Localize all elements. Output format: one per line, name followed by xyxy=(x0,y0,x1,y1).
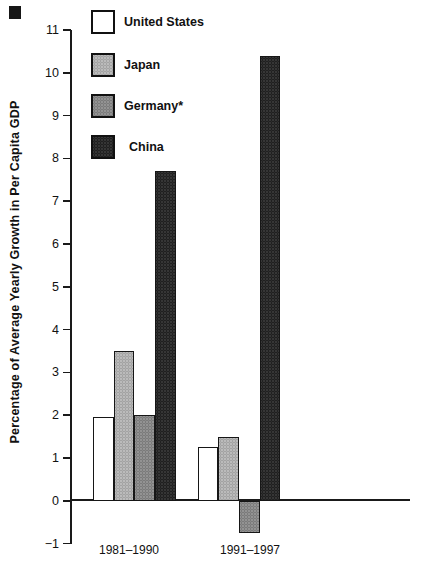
legend-item-united-states: United States xyxy=(91,10,204,34)
y-tick-label-10: 10 xyxy=(18,65,59,81)
x-label-1991-1997: 1991–1997 xyxy=(220,543,280,557)
y-tick-label-4: 4 xyxy=(18,322,59,338)
legend-item-germany: Germany* xyxy=(91,94,183,118)
y-tick-6 xyxy=(63,243,71,245)
bar-chart-figure: Percentage of Average Yearly Growth in P… xyxy=(0,0,424,564)
y-tick-3 xyxy=(63,372,71,374)
legend-label-united-states: United States xyxy=(124,15,204,29)
bar-japan-1981-1990 xyxy=(114,351,135,501)
y-tick-11 xyxy=(63,29,71,31)
y-tick-5 xyxy=(63,286,71,288)
y-tick-label-11: 11 xyxy=(18,22,59,38)
y-tick-9 xyxy=(63,115,71,117)
y-tick-label-1: 1 xyxy=(18,450,59,466)
bar-japan-1991-1997 xyxy=(218,437,239,501)
legend-swatch-china xyxy=(91,135,115,159)
bar-china-1981-1990 xyxy=(155,171,176,501)
bar-united-states-1981-1990 xyxy=(93,417,114,500)
y-tick-10 xyxy=(63,72,71,74)
y-tick-label-5: 5 xyxy=(18,279,59,295)
y-tick-label-2: 2 xyxy=(18,407,59,423)
bar-china-1991-1997 xyxy=(260,56,281,501)
legend-label-japan: Japan xyxy=(124,58,160,72)
y-tick-8 xyxy=(63,158,71,160)
legend-item-japan: Japan xyxy=(91,53,160,77)
y-tick-4 xyxy=(63,329,71,331)
y-tick-label-9: 9 xyxy=(18,108,59,124)
y-tick-label--1: −1 xyxy=(18,536,59,552)
bar-germany-1981-1990 xyxy=(134,415,155,501)
y-tick-label-7: 7 xyxy=(18,193,59,209)
y-tick-label-8: 8 xyxy=(18,150,59,166)
legend-swatch-japan xyxy=(91,53,115,77)
bar-germany-1991-1997 xyxy=(239,501,260,533)
legend-swatch-united-states xyxy=(91,10,115,34)
legend-item-china: China xyxy=(91,135,164,159)
y-tick-7 xyxy=(63,200,71,202)
y-tick-label-6: 6 xyxy=(18,236,59,252)
y-axis-line xyxy=(70,30,72,544)
y-tick--1 xyxy=(63,543,71,545)
legend-label-germany: Germany* xyxy=(124,99,183,113)
y-tick-label-0: 0 xyxy=(18,493,59,509)
legend-label-china: China xyxy=(129,140,164,154)
x-label-1981-1990: 1981–1990 xyxy=(99,543,159,557)
bar-united-states-1991-1997 xyxy=(198,447,219,501)
legend-swatch-germany xyxy=(91,94,115,118)
y-tick-2 xyxy=(63,414,71,416)
print-artifact xyxy=(9,6,21,19)
y-tick-label-3: 3 xyxy=(18,364,59,380)
y-tick-0 xyxy=(63,500,71,502)
y-tick-1 xyxy=(63,457,71,459)
